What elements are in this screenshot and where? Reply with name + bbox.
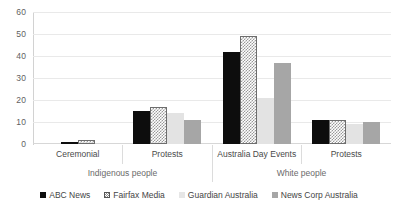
bar-group-protests-white xyxy=(302,12,392,144)
bar-groups xyxy=(33,12,391,144)
legend-item-news-corp-australia[interactable]: News Corp Australia xyxy=(272,191,358,200)
legend-swatch-news-corp-australia-icon xyxy=(272,192,278,198)
bar-abc-news xyxy=(223,52,240,144)
y-tick-40: 40 xyxy=(0,52,26,61)
bar-abc-news xyxy=(61,142,78,144)
legend-swatch-fairfax-media-icon xyxy=(104,192,110,198)
bar-fairfax-media xyxy=(150,107,167,144)
y-tick-0: 0 xyxy=(0,140,26,149)
bar-news-corp-australia xyxy=(274,63,291,144)
y-tick-60: 60 xyxy=(0,8,26,17)
bar-guardian-australia xyxy=(167,113,184,144)
legend-label-news-corp-australia: News Corp Australia xyxy=(281,191,358,200)
bar-news-corp-australia xyxy=(184,120,201,144)
bar-group-australia-day-events xyxy=(212,12,302,144)
bar-guardian-australia xyxy=(257,98,274,144)
legend-swatch-guardian-australia-icon xyxy=(179,192,185,198)
x-axis-group-labels: Indigenous people White people xyxy=(33,166,391,181)
bar-fairfax-media xyxy=(240,36,257,144)
x-label-protests-indigenous: Protests xyxy=(123,147,213,163)
bar-abc-news xyxy=(312,120,329,144)
bar-guardian-australia xyxy=(346,124,363,144)
y-tick-30: 30 xyxy=(0,74,26,83)
x-label-ceremonial: Ceremonial xyxy=(33,147,123,163)
bar-abc-news xyxy=(133,111,150,144)
legend-item-abc-news[interactable]: ABC News xyxy=(40,191,90,200)
chart-legend: ABC News Fairfax Media Guardian Australi… xyxy=(0,187,398,203)
bar-news-corp-australia xyxy=(363,122,380,144)
legend-label-guardian-australia: Guardian Australia xyxy=(188,191,258,200)
x-label-protests-white: Protests xyxy=(302,147,392,163)
x-label-australia-day-events: Australia Day Events xyxy=(212,147,302,163)
y-tick-10: 10 xyxy=(0,118,26,127)
legend-label-abc-news: ABC News xyxy=(49,191,90,200)
bar-fairfax-media xyxy=(329,120,346,144)
bar-fairfax-media xyxy=(78,140,95,144)
legend-item-guardian-australia[interactable]: Guardian Australia xyxy=(179,191,258,200)
bar-group-ceremonial xyxy=(33,12,123,144)
x-axis-category-labels: Ceremonial Protests Australia Day Events… xyxy=(33,147,391,163)
group-label-white-people: White people xyxy=(212,166,391,181)
bar-group-protests-indigenous xyxy=(123,12,213,144)
legend-item-fairfax-media[interactable]: Fairfax Media xyxy=(104,191,165,200)
legend-swatch-abc-news-icon xyxy=(40,192,46,198)
legend-label-fairfax-media: Fairfax Media xyxy=(113,191,165,200)
y-tick-50: 50 xyxy=(0,30,26,39)
group-label-indigenous-people: Indigenous people xyxy=(33,166,212,181)
y-tick-20: 20 xyxy=(0,96,26,105)
bar-chart: 60 50 40 30 20 10 0 xyxy=(0,0,398,209)
plot-area xyxy=(33,12,391,144)
